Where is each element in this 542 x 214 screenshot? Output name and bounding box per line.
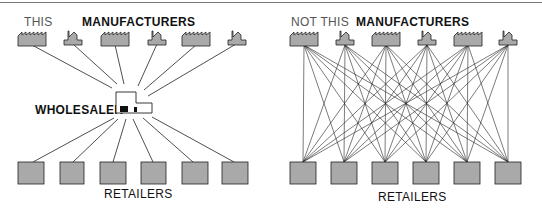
sawtooth-factory-icon [182,32,210,46]
distribution-diagram [0,0,542,214]
sawtooth-factory-icon [454,32,482,46]
retailer-store-icon [372,162,398,184]
sawtooth-factory-icon [290,32,318,46]
retailer-store-icon [18,162,44,184]
left-manufacturers [18,31,246,46]
sawtooth-factory-icon [372,32,400,46]
chimney-factory-icon [228,31,246,45]
retailer-store-icon [182,162,208,184]
retailer-store-icon [100,162,126,184]
chimney-factory-icon [64,31,82,45]
right-retailers [290,162,521,184]
retailer-store-icon [141,162,166,184]
left-manufacturer-links [32,44,236,96]
chimney-factory-icon [499,31,517,45]
retailer-store-icon [331,162,357,184]
retailer-store-icon [495,162,521,184]
retailer-store-icon [454,162,480,184]
sawtooth-factory-icon [101,32,129,46]
right-manufacturers [290,31,517,46]
retailer-store-icon [60,162,84,184]
retailer-store-icon [413,162,439,184]
retailer-store-icon [290,162,316,184]
left-retailer-links [33,117,234,162]
chimney-factory-icon [148,31,166,45]
sawtooth-factory-icon [18,32,46,46]
retailer-store-icon [222,162,248,184]
wholesaler-warehouse-icon [116,92,152,113]
left-retailers [18,162,248,184]
right-direct-links [303,45,508,162]
chimney-factory-icon [336,31,354,45]
chimney-factory-icon [418,31,436,45]
